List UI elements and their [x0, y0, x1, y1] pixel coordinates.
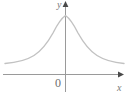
origin-label: 0	[55, 76, 61, 90]
x-axis-label: x	[116, 82, 122, 93]
coordinate-plot: y x 0	[0, 0, 127, 95]
y-axis-label: y	[56, 0, 62, 10]
x-axis-arrow-icon	[118, 72, 124, 78]
figure-container: y x 0	[0, 0, 127, 95]
y-axis-arrow-icon	[63, 1, 69, 7]
bell-curve-path	[5, 16, 124, 64]
